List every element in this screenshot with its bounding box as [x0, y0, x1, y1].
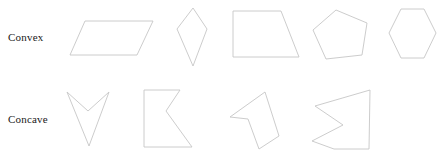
- row-label-concave: Concave: [8, 113, 48, 125]
- shape-pentagon: [313, 10, 367, 59]
- row-label-convex: Convex: [8, 31, 43, 43]
- polygon-illustration-canvas: [0, 0, 445, 159]
- shape-dart-quadrilateral: [230, 92, 279, 149]
- concave-shape-group: [67, 90, 370, 149]
- shape-parallelogram: [70, 21, 153, 55]
- shape-trapezoid: [233, 11, 299, 57]
- shape-notched-block: [144, 90, 192, 147]
- shape-bowtie-polygon: [312, 90, 370, 149]
- shape-kite: [177, 8, 207, 66]
- shape-arrowhead-chevron: [67, 92, 109, 146]
- shape-hexagon: [389, 9, 436, 58]
- convex-shape-group: [70, 8, 436, 66]
- figure-root: Convex Concave: [0, 0, 445, 159]
